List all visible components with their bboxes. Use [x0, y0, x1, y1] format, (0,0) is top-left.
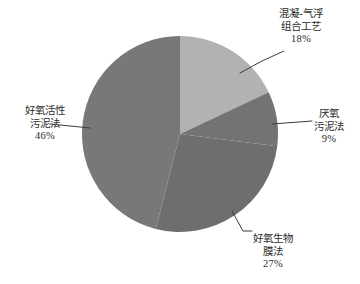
pie-label-anaerobic: 厌氧 污泥法 9%: [300, 108, 358, 146]
pie-label-aerobic-line2: 污泥法: [2, 118, 88, 131]
pie-label-anaerobic-percent: 9%: [300, 133, 358, 146]
pie-label-coagulation-percent: 18%: [252, 33, 350, 46]
pie-label-biofilm-line1: 好氧生物: [232, 233, 314, 246]
pie-label-aerobic-percent: 46%: [2, 130, 88, 143]
pie-label-aerobic: 好氧活性 污泥法 46%: [2, 105, 88, 143]
pie-label-biofilm: 好氧生物 膜法 27%: [232, 233, 314, 271]
pie-chart-figure: 混凝-气浮 组合工艺 18% 厌氧 污泥法 9% 好氧生物 膜法 27% 好氧活…: [0, 0, 360, 284]
pie-label-biofilm-percent: 27%: [232, 258, 314, 271]
pie-label-biofilm-line2: 膜法: [232, 246, 314, 259]
pie-label-anaerobic-line1: 厌氧: [300, 108, 358, 121]
pie-label-aerobic-line1: 好氧活性: [2, 105, 88, 118]
pie-label-anaerobic-line2: 污泥法: [300, 121, 358, 134]
pie-slices: [82, 36, 278, 232]
pie-label-coagulation: 混凝-气浮 组合工艺 18%: [252, 8, 350, 46]
pie-label-coagulation-line2: 组合工艺: [252, 21, 350, 34]
pie-label-coagulation-line1: 混凝-气浮: [252, 8, 350, 21]
leader-line-coagulation: [240, 51, 284, 73]
